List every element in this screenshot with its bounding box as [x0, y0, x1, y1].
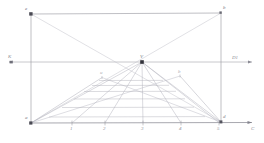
- horizon-line-group: [9, 61, 252, 64]
- label-distance-point-right: D1: [232, 55, 238, 60]
- perspective-diagram: e b a d V K D1 u b C 1 2 3 4 5: [0, 0, 264, 143]
- corner-diagonals: [31, 13, 221, 123]
- point-markers: [10, 11, 223, 124]
- grid-right-rail: [180, 76, 221, 122]
- perspective-grid-transversals: [49, 80, 205, 117]
- distance-diagonal-right: [102, 78, 221, 123]
- vanishing-ray-to-1: [72, 62, 142, 123]
- marker-top-left-e: [29, 12, 32, 15]
- horizon-right-arrow-icon: [248, 61, 252, 64]
- vanishing-ray-to-d: [142, 62, 221, 122]
- label-distance-point-left: K: [8, 54, 11, 59]
- marker-bottom-right-d: [219, 120, 222, 123]
- label-ground-division-3: 3: [141, 126, 144, 131]
- label-ground-division-1: 1: [70, 126, 73, 131]
- vanishing-ray-to-a: [31, 62, 142, 123]
- label-point-b: b: [223, 5, 226, 10]
- distance-point-diagonals: [31, 76, 221, 123]
- label-ground-division-2: 2: [103, 126, 106, 131]
- label-ground-axis-end: C: [251, 126, 254, 131]
- label-point-e: e: [25, 6, 27, 11]
- marker-vanishing-point: [140, 60, 144, 64]
- grid-left-rail: [31, 78, 102, 124]
- ground-right-arrow-icon: [248, 121, 253, 124]
- vanishing-ray-to-2: [105, 62, 142, 123]
- diagonal-topright-to-bottomleft: [31, 13, 221, 123]
- distance-diagonal-left: [31, 76, 180, 123]
- perspective-grid-edges: [31, 76, 221, 123]
- marker-distance-point-left: [10, 61, 13, 64]
- label-grid-right-mark: b: [178, 69, 181, 74]
- label-ground-division-5: 5: [217, 126, 220, 131]
- label-ground-division-4: 4: [179, 126, 182, 131]
- marker-top-right-b: [219, 11, 221, 13]
- perspective-drawing-canvas: [0, 0, 264, 143]
- frame-top-edge: [31, 13, 221, 14]
- vanishing-ray-to-4: [142, 62, 181, 123]
- label-point-d: d: [223, 114, 226, 119]
- label-point-a: a: [25, 115, 28, 120]
- marker-bottom-left-a: [29, 121, 32, 124]
- label-grid-left-mark: u: [100, 70, 103, 75]
- label-vanishing-point: V: [140, 54, 143, 59]
